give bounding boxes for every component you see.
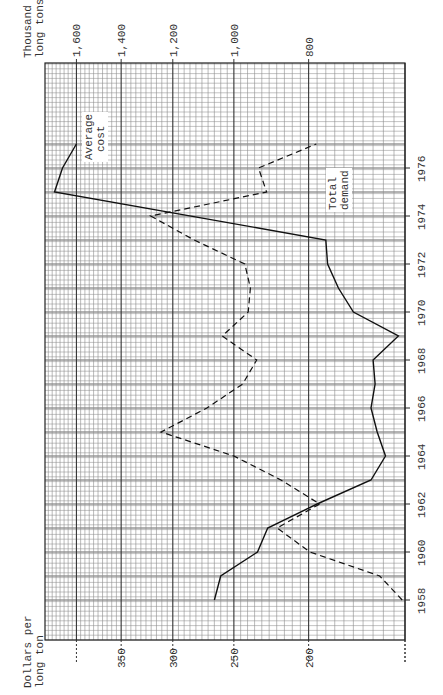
year-tick: 1974 [416, 203, 428, 230]
right-axis-tick: 1,000 [229, 24, 241, 57]
year-tick: 1968 [416, 348, 428, 374]
series-lines [55, 144, 403, 600]
left-axis-tick: 300 [168, 648, 180, 668]
right-axis-tick: 1,200 [168, 24, 180, 57]
year-tick: 1962 [416, 492, 428, 518]
year-tick: 1960 [416, 540, 428, 566]
chart-canvas: 2002503003508001,0001,2001,4001,60019581… [0, 0, 443, 695]
right-axis-title: Thousand long tons [22, 0, 46, 58]
right-axis-tick: 1,600 [71, 24, 83, 57]
year-tick: 1958 [416, 588, 428, 614]
left-axis-tick: 250 [229, 648, 241, 668]
left-axis-title: Dollars per long ton [22, 615, 46, 688]
year-tick: 1976 [416, 156, 428, 182]
year-tick: 1966 [416, 396, 428, 422]
total-demand-label: Total demand [326, 168, 352, 212]
average-cost-line [55, 144, 399, 600]
year-tick: 1964 [416, 443, 428, 470]
right-axis-tick: 800 [304, 37, 316, 57]
left-axis-tick: 350 [116, 648, 128, 668]
average-cost-label: Average cost [82, 112, 108, 162]
year-tick: 1970 [416, 300, 428, 326]
year-tick: 1972 [416, 252, 428, 278]
right-axis-tick: 1,400 [116, 24, 128, 57]
left-axis-tick: 200 [304, 648, 316, 668]
